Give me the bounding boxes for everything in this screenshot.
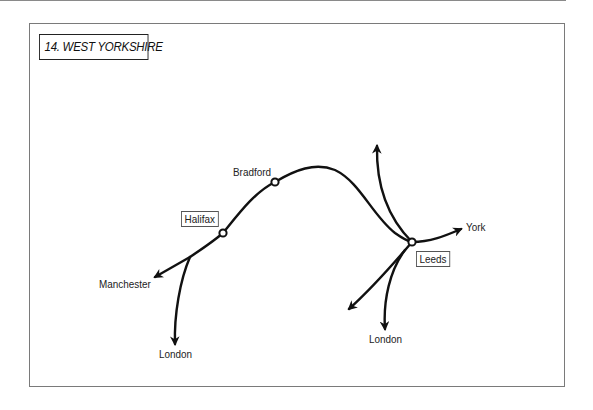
london-east-label: London	[369, 333, 402, 345]
halifax-station-marker	[219, 229, 226, 236]
bradford-label: Bradford	[233, 166, 271, 178]
york-branch	[412, 229, 461, 242]
manchester-label: Manchester	[99, 278, 151, 290]
route-map	[0, 0, 593, 410]
halifax-label: Halifax	[181, 211, 218, 227]
london-west-branch	[175, 257, 190, 344]
bradford-station-marker	[271, 178, 278, 185]
leeds-label: Leeds	[416, 251, 450, 267]
york-label: York	[466, 221, 485, 233]
leeds-station-marker	[408, 238, 415, 245]
london-west-label: London	[159, 348, 192, 360]
north-branch	[377, 146, 412, 242]
